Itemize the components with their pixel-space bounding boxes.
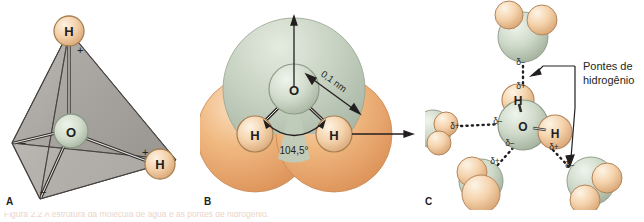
delta-plus-bottom: δ+ (490, 156, 500, 166)
callout-line-2: hidrogênio (583, 74, 634, 86)
delta-minus-left: δ− (493, 116, 503, 126)
panel-c-graphic: H O H δ− δ+ δ+ δ− δ− δ+ δ+ δ− (425, 0, 644, 210)
svg-text:H: H (250, 128, 259, 143)
charge-minus-bottom: − (40, 186, 46, 198)
bond-angle-label: 104,5° (279, 145, 308, 156)
oxygen-atom: O (54, 114, 88, 148)
figure-caption: Figura 2.2 A estrutura da molécula de ág… (4, 212, 269, 219)
hydrogen-atom-top: H (54, 16, 84, 46)
delta-plus-left: δ+ (450, 121, 460, 131)
hydrogen-atom-right: H (145, 149, 175, 179)
panel-label-a: A (6, 196, 13, 207)
panel-c-hydrogen-bond-network: H O H δ− δ+ δ+ δ− δ− δ+ δ+ δ− (425, 0, 644, 222)
delta-plus-right: δ+ (549, 142, 559, 152)
delta-plus-top: δ+ (516, 81, 526, 91)
panel-b-graphic: O H H (200, 0, 425, 210)
panel-label-b: B (204, 196, 211, 207)
svg-text:H: H (64, 24, 73, 39)
figure-caption-strip: Figura 2.2 A estrutura da molécula de ág… (0, 212, 644, 222)
charge-plus-top: + (77, 44, 83, 56)
water-molecule-figure: + + − − H H O A (0, 0, 644, 222)
panel-a-tetrahedral-model: + + − − H H O A (0, 0, 200, 222)
svg-text:H: H (514, 94, 523, 108)
delta-minus-top: δ− (516, 57, 526, 67)
hydrogen-atom-left: H (237, 116, 273, 152)
charge-minus-left: − (20, 137, 26, 149)
panel-label-c: C (425, 196, 432, 207)
svg-text:O: O (66, 125, 76, 140)
water-molecule-bottom-right (567, 157, 622, 210)
hydrogen-atom-right: H (316, 116, 352, 152)
svg-text:H: H (155, 157, 164, 172)
panel-b-space-filling-model: O H H (200, 0, 425, 222)
svg-text:H: H (551, 127, 560, 141)
svg-text:O: O (518, 120, 527, 134)
water-molecule-top (495, 1, 557, 62)
callout-line-1: Pontes de (583, 60, 633, 72)
svg-text:H: H (329, 128, 338, 143)
water-molecule-left (425, 110, 458, 155)
panel-a-graphic: + + − − H H O (0, 0, 200, 210)
delta-minus-bottom: δ− (505, 138, 515, 148)
